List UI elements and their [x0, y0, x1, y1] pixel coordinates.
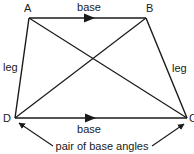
vertex-label-b: B — [146, 2, 153, 14]
diagonal-ac — [29, 18, 187, 118]
vertex-label-c: C — [189, 112, 194, 124]
bottom-base-label: base — [77, 123, 101, 135]
diagonal-bd — [15, 18, 146, 118]
right-leg-label: leg — [172, 62, 187, 74]
top-base-label: base — [77, 1, 101, 13]
parallel-arrow-bottom-icon — [85, 114, 96, 123]
pointer-arrow-c-icon — [152, 124, 184, 146]
base-angles-annotation: pair of base angles — [56, 140, 149, 152]
parallel-arrow-top-icon — [84, 14, 95, 23]
trapezoid-diagram: A B C D base base leg leg pair of base a… — [0, 0, 194, 154]
pointer-arrow-d-icon — [19, 123, 53, 146]
left-leg-label: leg — [3, 61, 18, 73]
vertex-label-d: D — [3, 112, 11, 124]
vertex-label-a: A — [24, 2, 32, 14]
